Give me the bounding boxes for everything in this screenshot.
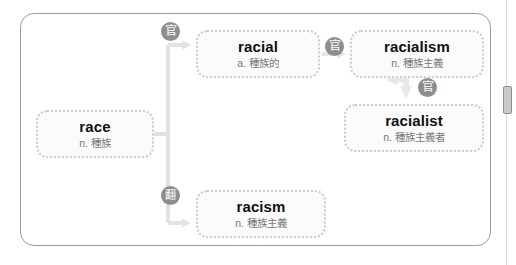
node-race[interactable]: race n. 種族 [36, 110, 154, 158]
node-racialist-word: racialist [385, 113, 443, 129]
node-racism[interactable]: racism n. 種族主義 [196, 190, 326, 238]
node-race-word: race [79, 119, 110, 135]
affix-badge-icon-racialism[interactable]: 官 [325, 37, 344, 56]
node-racialism-word: racialism [384, 39, 450, 55]
node-racialism-gloss: n. 種族主義 [391, 58, 443, 70]
affix-badge-dense-icon-racism[interactable]: 翻 [161, 186, 180, 205]
diagram-stage: race n. 種族 racial a. 種族的 racialism n. 種族… [0, 0, 516, 265]
affix-badge-icon-racial[interactable]: 官 [161, 22, 180, 41]
scrollbar-thumb[interactable] [503, 86, 512, 114]
affix-badge-icon-racialist[interactable]: 官 [418, 78, 437, 97]
scrollbar-track[interactable] [506, 0, 507, 265]
node-racial-gloss: a. 種族的 [237, 58, 279, 70]
node-racial-word: racial [238, 39, 278, 55]
node-race-gloss: n. 種族 [79, 138, 111, 150]
node-racism-word: racism [237, 199, 286, 215]
node-racialist[interactable]: racialist n. 種族主義者 [344, 104, 484, 152]
node-racial[interactable]: racial a. 種族的 [196, 30, 320, 78]
node-racism-gloss: n. 種族主義 [235, 218, 287, 230]
node-racialist-gloss: n. 種族主義者 [383, 132, 445, 144]
node-racialism[interactable]: racialism n. 種族主義 [350, 30, 484, 78]
